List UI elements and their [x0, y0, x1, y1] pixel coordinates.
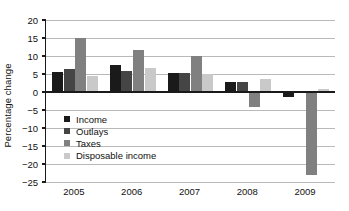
bar — [249, 92, 260, 107]
bar — [121, 71, 132, 92]
y-tick-mark — [42, 55, 46, 56]
bar — [179, 73, 190, 92]
legend-swatch-icon — [64, 140, 70, 146]
x-tick-label: 2009 — [295, 186, 316, 197]
y-tick-mark — [42, 37, 46, 38]
bar — [110, 65, 121, 92]
bar — [145, 68, 156, 92]
bar — [133, 50, 144, 92]
legend: IncomeOutlaysTaxesDisposable income — [64, 113, 156, 162]
bar — [168, 73, 179, 92]
zero-axis-line — [46, 91, 335, 92]
bar — [64, 69, 75, 92]
y-tick-label: 0 — [0, 87, 38, 98]
bar — [87, 76, 98, 92]
legend-swatch-icon — [64, 116, 70, 122]
chart-container: Percentage change 20151050−5−10−15−20−25… — [0, 0, 349, 211]
y-tick-mark — [42, 181, 46, 182]
gridline — [46, 182, 335, 183]
legend-label: Disposable income — [76, 150, 156, 161]
legend-item-income: Income — [64, 113, 156, 125]
y-tick-label: −15 — [0, 141, 38, 152]
bar — [191, 56, 202, 92]
x-tick-label: 2006 — [121, 186, 142, 197]
bar — [202, 74, 213, 92]
legend-swatch-icon — [64, 153, 70, 159]
legend-label: Outlays — [76, 126, 108, 137]
x-tick-label: 2005 — [63, 186, 84, 197]
legend-item-disposable-income: Disposable income — [64, 150, 156, 162]
y-tick-label: −10 — [0, 123, 38, 134]
bar — [283, 92, 294, 97]
y-tick-label: −5 — [0, 105, 38, 116]
x-tick-label: 2008 — [237, 186, 258, 197]
x-tick-label: 2007 — [179, 186, 200, 197]
gridline — [46, 38, 335, 39]
gridline — [46, 110, 335, 111]
y-tick-mark — [42, 109, 46, 110]
y-tick-mark — [42, 73, 46, 74]
y-tick-mark — [42, 145, 46, 146]
y-tick-label: 10 — [0, 51, 38, 62]
legend-item-outlays: Outlays — [64, 125, 156, 137]
y-tick-label: 5 — [0, 69, 38, 80]
y-tick-label: −20 — [0, 159, 38, 170]
bar — [260, 79, 271, 92]
bar — [52, 72, 63, 92]
gridline — [46, 20, 335, 21]
y-tick-mark — [42, 127, 46, 128]
bar — [306, 92, 317, 175]
legend-label: Taxes — [76, 138, 101, 149]
bar — [75, 38, 86, 92]
y-tick-label: 15 — [0, 33, 38, 44]
y-tick-mark — [42, 19, 46, 20]
gridline — [46, 164, 335, 165]
y-tick-label: 20 — [0, 15, 38, 26]
legend-label: Income — [76, 114, 107, 125]
y-tick-mark — [42, 163, 46, 164]
legend-item-taxes: Taxes — [64, 137, 156, 149]
legend-swatch-icon — [64, 128, 70, 134]
y-tick-label: −25 — [0, 177, 38, 188]
